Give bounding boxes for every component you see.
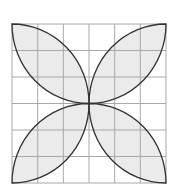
diagram-figure bbox=[0, 0, 184, 195]
